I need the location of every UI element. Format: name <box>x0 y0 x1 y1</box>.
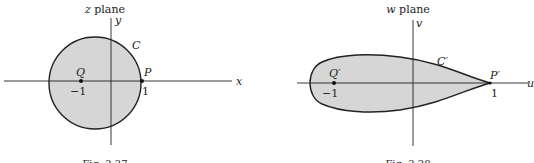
figure-canvas: z plane y x C Q P −1 1 Fig. 2.27 w plane… <box>0 0 534 163</box>
p-label: P <box>143 66 152 79</box>
point-q <box>79 79 83 83</box>
caption-left: Fig. 2.27 <box>82 158 127 163</box>
u-axis-label: u <box>527 77 534 90</box>
q-prime-label: Q′ <box>329 67 341 80</box>
curve-c-label: C <box>132 39 141 52</box>
region-disk <box>49 37 141 129</box>
tick-neg1: −1 <box>70 85 86 98</box>
caption-right: Fig. 2.28 <box>385 158 430 163</box>
tick-neg1-w: −1 <box>322 87 338 100</box>
tick-1-w: 1 <box>491 87 498 100</box>
point-p <box>140 79 144 83</box>
q-label: Q <box>76 66 85 79</box>
point-q-prime <box>332 81 336 85</box>
z-plane-diagram: z plane y x C Q P −1 1 Fig. 2.27 <box>4 3 243 163</box>
v-axis-label: v <box>416 17 423 30</box>
p-prime-label: P′ <box>489 69 500 82</box>
x-axis-label: x <box>236 75 243 88</box>
w-plane-title: w plane <box>386 3 430 16</box>
w-plane-diagram: w plane v u C′ Q′ P′ −1 1 Fig. 2.28 <box>297 3 534 163</box>
y-axis-label: y <box>114 14 122 27</box>
curve-c-prime-label: C′ <box>437 55 448 68</box>
tick-1: 1 <box>142 85 149 98</box>
